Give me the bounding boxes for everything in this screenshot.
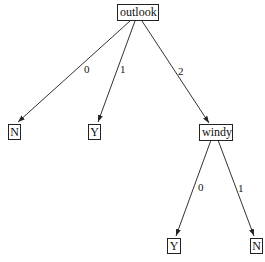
node-outlook: outlook [117, 4, 159, 21]
edge-outlook-to-N [18, 21, 130, 122]
edge-windy-to-Y [176, 140, 211, 236]
edge-label-windy-1: 1 [238, 183, 244, 194]
edge-outlook-to-Y [98, 21, 135, 122]
edge-outlook-to-windy [142, 21, 209, 123]
leaf-node-windy-Y: Y [167, 238, 181, 254]
node-windy: windy [199, 124, 233, 141]
leaf-node-N: N [8, 124, 21, 140]
edge-label-outlook-2: 2 [178, 66, 184, 77]
leaf-node-windy-N: N [250, 238, 263, 254]
edge-windy-to-N [218, 140, 254, 236]
edge-label-outlook-0: 0 [84, 64, 90, 75]
edge-label-outlook-1: 1 [120, 64, 126, 75]
edge-label-windy-0: 0 [198, 182, 204, 193]
leaf-node-Y: Y [88, 124, 101, 140]
